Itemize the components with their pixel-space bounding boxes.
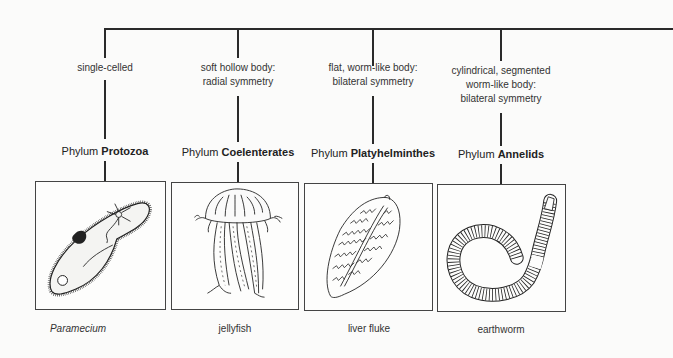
phylum-label-coelenterates: Phylum Coelenterates bbox=[182, 145, 295, 159]
characteristic-line: radial symmetry bbox=[201, 75, 276, 89]
phylum-name: Coelenterates bbox=[221, 146, 294, 158]
phylum-label-platyhelminthes: Phylum Platyhelminthes bbox=[311, 146, 435, 160]
characteristic-annelids: cylindrical, segmented worm-like body: b… bbox=[452, 64, 551, 106]
phylum-prefix: Phylum bbox=[182, 146, 219, 158]
earthworm-drawing bbox=[438, 185, 565, 311]
branch-line-protozoa-bottom bbox=[104, 161, 106, 182]
phylum-label-protozoa: Phylum Protozoa bbox=[62, 144, 149, 158]
illustration-box-liver-fluke bbox=[304, 183, 433, 311]
characteristic-line: single-celled bbox=[77, 62, 133, 73]
branch-line-protozoa-mid bbox=[104, 80, 106, 139]
liver-fluke-drawing bbox=[305, 184, 432, 310]
characteristic-line: bilateral symmetry bbox=[452, 92, 551, 106]
branch-line-coelenterates-top bbox=[237, 28, 239, 58]
phylum-name: Protozoa bbox=[101, 145, 148, 157]
phylum-name: Platyhelminthes bbox=[351, 147, 435, 159]
characteristic-line: worm-like body: bbox=[452, 78, 551, 92]
branch-line-annelids-bottom bbox=[500, 164, 502, 184]
phylum-classification-diagram: single-celled Phylum Protozoa bbox=[0, 0, 673, 358]
illustration-box-paramecium bbox=[35, 181, 166, 310]
example-caption-liver-fluke: liver fluke bbox=[348, 322, 390, 336]
phylum-prefix: Phylum bbox=[62, 145, 99, 157]
illustration-box-earthworm bbox=[437, 184, 566, 312]
characteristic-protozoa: single-celled bbox=[77, 61, 133, 75]
characteristic-line: soft hollow body: bbox=[201, 61, 276, 75]
branch-line-protozoa-top bbox=[104, 28, 106, 58]
example-caption-jellyfish: jellyfish bbox=[219, 322, 252, 336]
example-caption-earthworm: earthworm bbox=[477, 323, 524, 337]
paramecium-drawing bbox=[36, 182, 165, 309]
phylum-name: Annelids bbox=[498, 148, 544, 160]
branch-line-annelids-mid bbox=[500, 113, 502, 146]
branch-line-annelids-top bbox=[500, 28, 502, 61]
characteristic-line: bilateral symmetry bbox=[329, 75, 418, 89]
branch-line-platyhelminthes-mid bbox=[372, 96, 374, 144]
jellyfish-drawing bbox=[172, 183, 298, 309]
characteristic-line: flat, worm-like body: bbox=[329, 61, 418, 75]
phylum-prefix: Phylum bbox=[458, 148, 495, 160]
branch-line-coelenterates-bottom bbox=[237, 162, 239, 182]
phylum-prefix: Phylum bbox=[311, 147, 348, 159]
branch-line-platyhelminthes-bottom bbox=[372, 163, 374, 183]
characteristic-platyhelminthes: flat, worm-like body: bilateral symmetry bbox=[329, 61, 418, 89]
characteristic-line: cylindrical, segmented bbox=[452, 64, 551, 78]
phylum-label-annelids: Phylum Annelids bbox=[458, 147, 544, 161]
example-caption-paramecium: Paramecium bbox=[50, 322, 106, 336]
trunk-line bbox=[104, 28, 673, 30]
branch-line-coelenterates-mid bbox=[237, 96, 239, 142]
characteristic-coelenterates: soft hollow body: radial symmetry bbox=[201, 61, 276, 89]
illustration-box-jellyfish bbox=[171, 182, 299, 310]
